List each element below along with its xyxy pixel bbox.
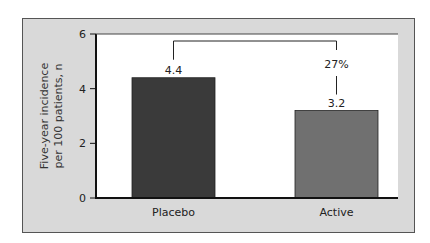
category-label-placebo: Placebo [152,206,195,219]
category-label-active: Active [319,206,353,219]
y-tick-label-6: 6 [79,28,86,41]
bar-chart: 4.4Placebo3.2Active 0246 27% Five-year i… [0,0,430,243]
bar-active [295,111,378,198]
y-tick-label-4: 4 [79,83,86,96]
bar-placebo [132,78,215,198]
y-axis-title-line1: Five-year incidence [38,63,51,170]
data-label-active: 3.2 [328,97,346,110]
y-tick-label-0: 0 [79,192,86,205]
data-label-placebo: 4.4 [165,64,183,77]
annotation-label: 27% [324,58,348,71]
y-tick-label-2: 2 [79,137,86,150]
y-axis-title-line2: per 100 patients, n [52,63,65,168]
